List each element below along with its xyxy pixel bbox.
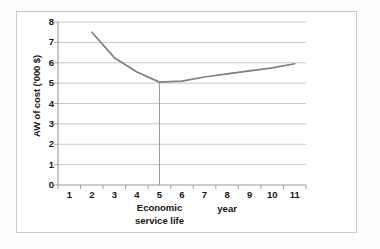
x-tick-label: 1 (58, 189, 80, 201)
y-tick-label: 8 (40, 17, 54, 27)
x-tick-label: 4 (126, 189, 148, 201)
cost-series-line (92, 32, 295, 82)
y-tick-label: 1 (40, 160, 54, 170)
y-tick-label: 0 (40, 180, 54, 190)
chart-canvas (58, 22, 306, 185)
x-tick-label: 8 (216, 189, 238, 201)
x-tick-label: 6 (171, 189, 193, 201)
x-tick-label: 9 (239, 189, 261, 201)
y-tick-label: 3 (40, 119, 54, 129)
economic-service-life-line2: service life (105, 214, 215, 227)
y-tick-label: 2 (40, 139, 54, 149)
x-axis-title: year (197, 203, 257, 215)
horizontal-gridlines (58, 22, 306, 165)
y-tick-label: 6 (40, 58, 54, 68)
x-tick-label: 3 (103, 189, 125, 201)
y-axis-tick-labels: 012345678 (38, 22, 54, 185)
x-tick-label: 7 (194, 189, 216, 201)
chart-figure: AW of cost ('000 $) 012345678 1234567891… (0, 0, 380, 249)
x-tick-label: 2 (81, 189, 103, 201)
y-tick-label: 4 (40, 99, 54, 109)
y-tick-label: 7 (40, 37, 54, 47)
x-tick-label: 10 (261, 189, 283, 201)
x-tick-label: 11 (284, 189, 306, 201)
plot-area (58, 22, 306, 185)
x-tick-label: 5 (149, 189, 171, 201)
y-tick-label: 5 (40, 78, 54, 88)
